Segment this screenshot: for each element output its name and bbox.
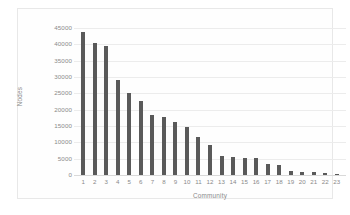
bar xyxy=(139,101,143,175)
x-axis-tick: 12 xyxy=(207,179,214,185)
y-axis-tick: 25000 xyxy=(44,90,72,96)
gridline xyxy=(74,44,346,45)
bar xyxy=(220,156,224,175)
y-axis-tick: 0 xyxy=(44,172,72,178)
x-axis-tick-labels: 1234567891011121314151617181920212223 xyxy=(74,179,346,191)
x-axis-tick: 17 xyxy=(264,179,271,185)
plot-area xyxy=(74,28,346,175)
x-axis-tick: 7 xyxy=(151,179,154,185)
x-axis-tick: 20 xyxy=(299,179,306,185)
bar xyxy=(162,117,166,175)
y-axis-tick: 35000 xyxy=(44,58,72,64)
chart-frame: Nodes 0500010000150002000025000300003500… xyxy=(17,8,333,199)
x-axis-tick: 22 xyxy=(322,179,329,185)
bar xyxy=(335,174,339,175)
y-axis-tick: 30000 xyxy=(44,74,72,80)
x-axis-tick: 10 xyxy=(183,179,190,185)
y-axis-tick: 20000 xyxy=(44,107,72,113)
bar xyxy=(323,173,327,175)
bar xyxy=(127,93,131,175)
y-axis-tick: 5000 xyxy=(44,156,72,162)
bar xyxy=(289,171,293,175)
gridline xyxy=(74,77,346,78)
bar xyxy=(173,122,177,175)
bar xyxy=(277,165,281,175)
gridline xyxy=(74,61,346,62)
bar xyxy=(196,137,200,175)
x-axis-tick: 16 xyxy=(253,179,260,185)
x-axis-tick: 13 xyxy=(218,179,225,185)
bar xyxy=(231,157,235,175)
bar xyxy=(116,80,120,175)
x-axis-tick: 8 xyxy=(162,179,165,185)
x-axis-tick: 4 xyxy=(116,179,119,185)
gridline xyxy=(74,175,346,176)
bar xyxy=(312,172,316,175)
bar xyxy=(104,46,108,175)
y-axis-title: Nodes xyxy=(16,87,23,106)
bar xyxy=(208,145,212,175)
x-axis-tick: 21 xyxy=(310,179,317,185)
y-axis-tick: 10000 xyxy=(44,139,72,145)
bar xyxy=(266,164,270,175)
bar xyxy=(93,43,97,175)
x-axis-tick: 2 xyxy=(93,179,96,185)
x-axis-tick: 14 xyxy=(230,179,237,185)
bar xyxy=(81,32,85,175)
gridline xyxy=(74,28,346,29)
y-axis-tick: 15000 xyxy=(44,123,72,129)
bar xyxy=(185,127,189,175)
x-axis-tick: 1 xyxy=(81,179,84,185)
x-axis-tick: 9 xyxy=(174,179,177,185)
x-axis-tick: 11 xyxy=(195,179,201,185)
x-axis-tick: 18 xyxy=(276,179,283,185)
x-axis-tick: 3 xyxy=(105,179,108,185)
x-axis-tick: 19 xyxy=(287,179,294,185)
x-axis-title: Community xyxy=(74,192,346,199)
y-axis-tick-labels: 0500010000150002000025000300003500040000… xyxy=(44,9,72,200)
bar xyxy=(300,172,304,175)
x-axis-tick: 6 xyxy=(139,179,142,185)
bar xyxy=(150,115,154,175)
y-axis-tick: 45000 xyxy=(44,25,72,31)
x-axis-tick: 5 xyxy=(128,179,131,185)
x-axis-tick: 23 xyxy=(333,179,340,185)
bar xyxy=(254,158,258,175)
y-axis-tick: 40000 xyxy=(44,41,72,47)
bar xyxy=(243,158,247,175)
x-axis-tick: 15 xyxy=(241,179,248,185)
